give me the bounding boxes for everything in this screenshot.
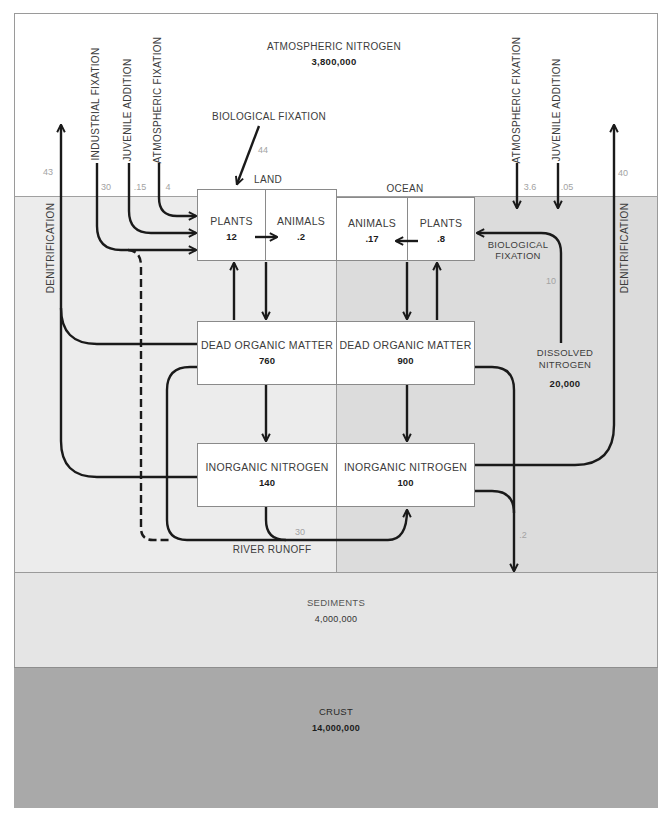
ocean-inorganic-nitrogen-box: INORGANIC NITROGEN 100 <box>336 443 475 507</box>
ocean-plants-label: PLANTS <box>420 217 463 230</box>
atmosphere-label: ATMOSPHERIC NITROGEN <box>267 41 401 53</box>
river-runoff-value: 30 <box>295 526 305 538</box>
land-dom-label: DEAD ORGANIC MATTER <box>201 339 333 352</box>
ocean-label: OCEAN <box>386 183 423 195</box>
atmosphere-value: 3,800,000 <box>312 56 357 68</box>
ocean-animals-value: .17 <box>365 232 378 246</box>
land-juvenile-addition-label: JUVENILE ADDITION <box>122 59 134 162</box>
sediments-value: 4,000,000 <box>315 613 358 625</box>
ocean-inorganic-n-value: 100 <box>398 476 414 490</box>
crust-value: 14,000,000 <box>312 722 360 734</box>
land-label: LAND <box>254 174 282 186</box>
river-runoff-label: RIVER RUNOFF <box>233 544 312 556</box>
land-atmospheric-fixation-value: 4 <box>165 181 170 193</box>
land-atmospheric-fixation-label: ATMOSPHERIC FIXATION <box>152 37 164 164</box>
land-animals-box: ANIMALS .2 <box>265 189 337 261</box>
ocean-dead-organic-matter-box: DEAD ORGANIC MATTER 900 <box>336 321 475 385</box>
dissolved-nitrogen-label-2: NITROGEN <box>539 359 592 371</box>
ocean-animals-label: ANIMALS <box>348 217 396 230</box>
ocean-dom-value: 900 <box>398 354 414 368</box>
dissolved-nitrogen-value: 20,000 <box>550 378 581 390</box>
dissolved-nitrogen-label-1: DISSOLVED <box>537 347 593 359</box>
ocean-atmospheric-fixation-label: ATMOSPHERIC FIXATION <box>511 37 523 164</box>
ocean-juvenile-addition-value: .05 <box>561 181 574 193</box>
land-dom-value: 760 <box>259 354 275 368</box>
land-juvenile-addition-value: .15 <box>134 181 147 193</box>
land-denitrification-value: 43 <box>43 166 53 178</box>
crust-label: CRUST <box>319 706 353 718</box>
land-animals-value: .2 <box>297 230 305 244</box>
sedimentation-value: .2 <box>519 529 527 541</box>
industrial-fixation-label: INDUSTRIAL FIXATION <box>90 48 102 161</box>
land-plants-label: PLANTS <box>210 215 253 228</box>
ocean-biological-fixation-label-2: FIXATION <box>495 250 541 262</box>
crust-region <box>14 667 658 808</box>
sediments-label: SEDIMENTS <box>307 597 365 609</box>
ocean-inorganic-n-label: INORGANIC NITROGEN <box>344 461 467 474</box>
ocean-juvenile-addition-label: JUVENILE ADDITION <box>551 59 563 162</box>
ocean-biological-fixation-value: 10 <box>546 275 556 287</box>
industrial-fixation-value: 30 <box>101 181 111 193</box>
land-inorganic-n-label: INORGANIC NITROGEN <box>205 461 328 474</box>
land-denitrification-label: DENITRIFICATION <box>45 203 57 293</box>
ocean-denitrification-value: 40 <box>618 167 628 179</box>
ocean-plants-value: .8 <box>437 232 445 246</box>
ocean-plants-box: PLANTS .8 <box>407 197 475 261</box>
ocean-atmospheric-fixation-value: 3.6 <box>524 181 537 193</box>
land-inorganic-n-value: 140 <box>259 476 275 490</box>
land-plants-value: 12 <box>226 230 237 244</box>
land-biological-fixation-value: 44 <box>258 144 268 156</box>
ocean-denitrification-label: DENITRIFICATION <box>619 203 631 293</box>
land-inorganic-nitrogen-box: INORGANIC NITROGEN 140 <box>197 443 337 507</box>
land-plants-box: PLANTS 12 <box>197 189 266 261</box>
land-biological-fixation-label: BIOLOGICAL FIXATION <box>212 111 326 123</box>
ocean-animals-box: ANIMALS .17 <box>336 197 408 261</box>
land-animals-label: ANIMALS <box>277 215 325 228</box>
ocean-dom-label: DEAD ORGANIC MATTER <box>339 339 471 352</box>
land-dead-organic-matter-box: DEAD ORGANIC MATTER 760 <box>197 321 337 385</box>
